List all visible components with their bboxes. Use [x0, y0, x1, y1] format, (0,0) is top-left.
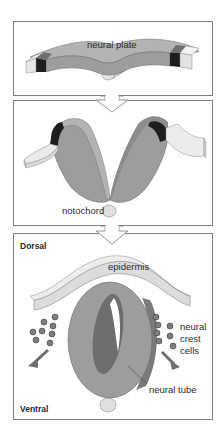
label-notochord: notochord [62, 206, 104, 216]
label-neural-crest-line3: cells [180, 346, 199, 356]
label-neural-plate: neural plate [87, 40, 137, 50]
neural-crest-cells-left [30, 314, 58, 346]
label-epidermis: epidermis [108, 262, 149, 272]
label-ventral: Ventral [20, 405, 48, 414]
label-dorsal: Dorsal [20, 242, 46, 251]
down-arrow-icon [96, 95, 128, 112]
label-neural-crest-line1: neural [180, 322, 206, 332]
migration-arrow-right-icon [162, 352, 180, 370]
migration-arrow-left-icon [28, 350, 48, 368]
notochord-rod [100, 398, 116, 412]
down-arrow-icon [96, 225, 128, 244]
neurulation-illustration [0, 0, 224, 435]
label-neural-crest-line2: crest [180, 334, 201, 344]
neural-fold-drawing [24, 116, 206, 217]
label-neural-tube: neural tube [149, 385, 197, 395]
